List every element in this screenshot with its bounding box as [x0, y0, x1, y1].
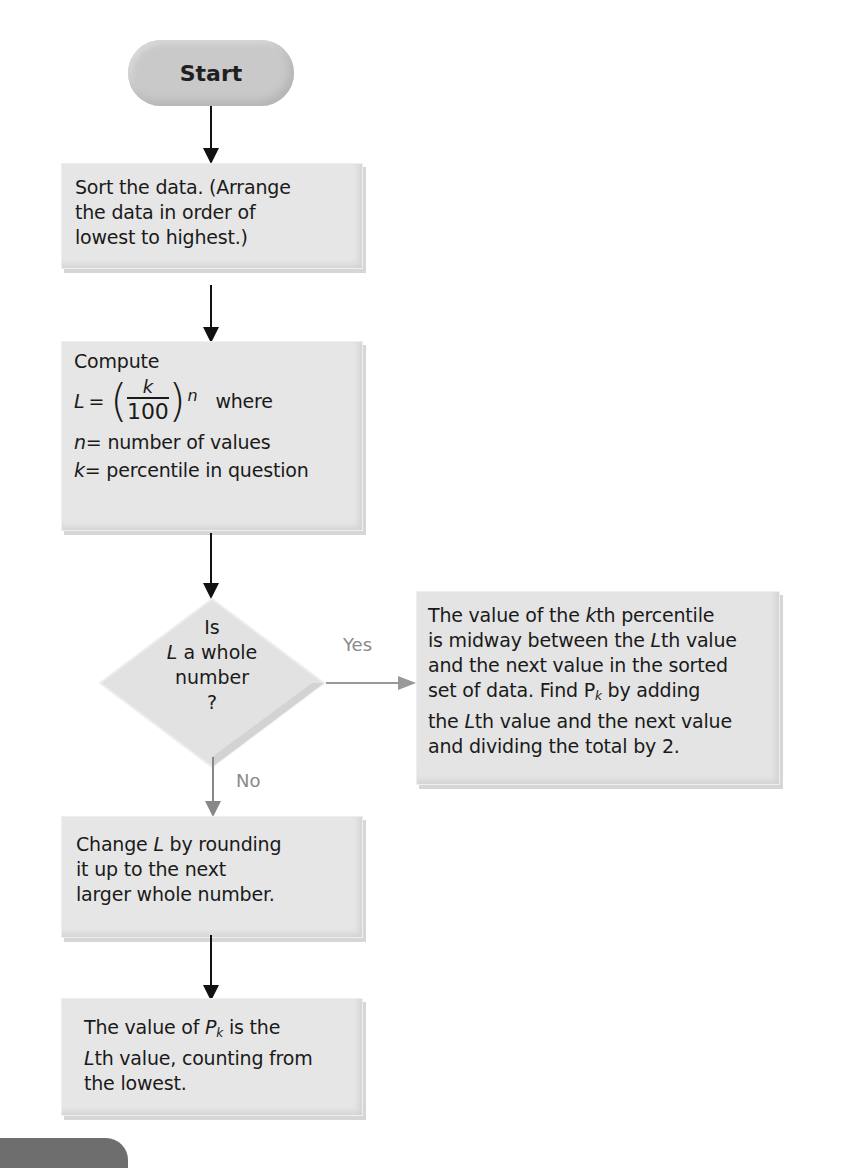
round-up-box: Change L by rounding it up to the next l… — [61, 816, 363, 938]
fraction-denominator: 100 — [127, 399, 168, 425]
midway-result-box: The value of the kth percentile is midwa… — [416, 591, 780, 785]
sort-line-3: lowest to highest.) — [75, 225, 363, 250]
def-n-symbol: n — [74, 431, 86, 453]
start-terminal: Start — [128, 40, 294, 106]
final-result-box: The value of Pk is the Lth value, counti… — [61, 998, 363, 1116]
start-label: Start — [180, 61, 243, 86]
yes-line-1: The value of the kth percentile — [428, 603, 780, 628]
sort-line-1: Sort the data. (Arrange — [75, 175, 363, 200]
formula-where: where — [215, 389, 272, 414]
formula-eq: = — [88, 389, 104, 414]
arrow-start-to-sort — [210, 106, 212, 162]
yes-line-2: is midway between the Lth value — [428, 628, 780, 653]
arrow-round-to-final — [210, 935, 212, 999]
decision-line-3: number — [98, 665, 326, 690]
compute-step-box: Compute L = ( k 100 ) n where n= number … — [61, 341, 363, 531]
sort-line-2: the data in order of — [75, 200, 363, 225]
yes-label: Yes — [343, 634, 372, 655]
arrow-yes — [326, 682, 414, 684]
fraction-numerator: k — [127, 377, 168, 399]
decision-diamond: Is L a whole number ? — [98, 597, 326, 769]
def-k-symbol: k — [74, 459, 85, 481]
sort-step-box: Sort the data. (Arrange the data in orde… — [61, 163, 363, 269]
arrow-no — [212, 757, 214, 815]
yes-line-3: and the next value in the sorted — [428, 653, 780, 678]
no-label: No — [236, 770, 260, 791]
def-k-text: = percentile in question — [85, 459, 309, 481]
yes-line-6: and dividing the total by 2. — [428, 734, 780, 759]
right-paren: ) — [169, 379, 186, 423]
final-line-1: The value of Pk is the — [84, 1015, 363, 1046]
left-paren: ( — [110, 379, 127, 423]
arrow-sort-to-compute — [210, 285, 212, 341]
formula: L = ( k 100 ) n where — [74, 374, 363, 428]
def-k: k= percentile in question — [74, 458, 363, 483]
round-line-1: Change L by rounding — [76, 832, 363, 857]
yes-line-4: set of data. Find Pk by adding — [428, 678, 780, 709]
round-line-2: it up to the next — [76, 857, 363, 882]
decision-line-4: ? — [98, 690, 326, 715]
decision-text: Is L a whole number ? — [98, 615, 326, 715]
def-n-text: = number of values — [86, 431, 271, 453]
formula-lhs: L — [74, 389, 84, 414]
compute-title: Compute — [74, 349, 363, 374]
final-line-3: the lowest. — [84, 1071, 363, 1096]
formula-factor: n — [187, 383, 197, 408]
arrow-compute-to-decision — [210, 533, 212, 597]
decision-line-1: Is — [98, 615, 326, 640]
decision-line-2: L a whole — [98, 640, 326, 665]
final-line-2: Lth value, counting from — [84, 1046, 363, 1071]
yes-line-5: the Lth value and the next value — [428, 709, 780, 734]
round-line-3: larger whole number. — [76, 882, 363, 907]
section-tab — [0, 1138, 128, 1168]
fraction: k 100 — [127, 377, 168, 425]
def-n: n= number of values — [74, 430, 363, 455]
